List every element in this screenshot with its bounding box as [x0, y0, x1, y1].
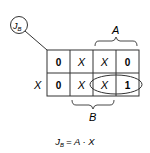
map-corner-line: [25, 31, 47, 50]
column-var-b: B: [89, 111, 96, 123]
map-label: JB: [12, 21, 22, 32]
cell-r0-c1: X: [77, 56, 86, 68]
brace-b: [72, 100, 114, 109]
cell-r0-c0: 0: [56, 57, 62, 68]
row-var-x: X: [33, 79, 42, 91]
karnaugh-map-diagram: JB A B X 0 X X 0 0 X X 1 JB= A · X: [0, 0, 150, 153]
cell-r1-c3: 1: [125, 80, 131, 91]
cell-r0-c2: X: [100, 56, 109, 68]
equation: JB= A · X: [54, 136, 95, 148]
cell-r1-c1: X: [77, 79, 86, 91]
column-var-a: A: [111, 24, 119, 36]
cell-r1-c0: 0: [56, 80, 62, 91]
brace-a: [95, 37, 137, 46]
cell-r1-c2: X: [100, 79, 109, 91]
cell-r0-c3: 0: [125, 57, 131, 68]
